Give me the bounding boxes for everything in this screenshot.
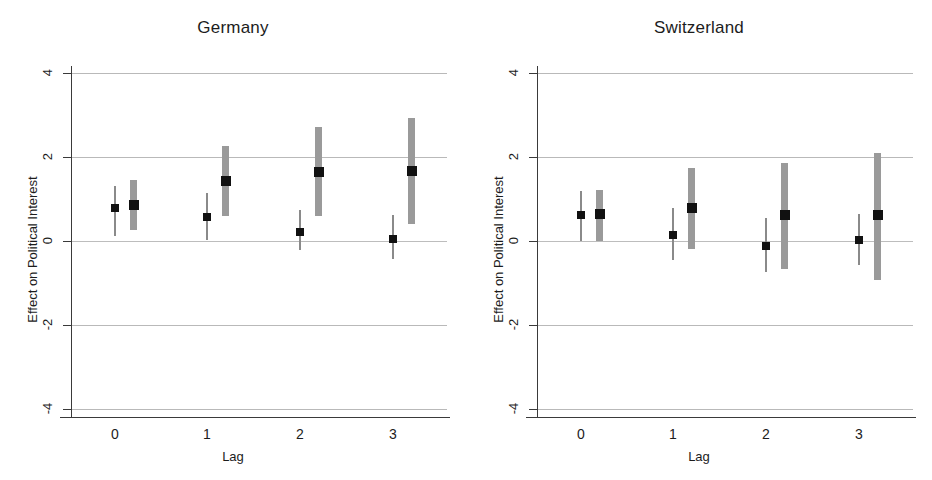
- panel-switzerland: Switzerland Effect on Political Interest…: [466, 0, 932, 480]
- gridline--2: [72, 325, 447, 326]
- point-estimate-marker: [203, 213, 211, 221]
- y-tick-mark: [529, 325, 538, 326]
- point-estimate-marker: [595, 209, 605, 219]
- x-tick-label-2: 2: [751, 426, 781, 442]
- y-tick-label: -4: [40, 398, 55, 420]
- point-estimate-marker: [221, 176, 231, 186]
- y-tick-label: 4: [506, 62, 521, 84]
- y-tick-mark: [529, 241, 538, 242]
- y-axis-title: Effect on Political Interest: [25, 125, 40, 375]
- gridline-2: [538, 157, 913, 158]
- y-tick-mark: [529, 409, 538, 410]
- gridline-2: [72, 157, 447, 158]
- x-tick-label-1: 1: [658, 426, 688, 442]
- point-estimate-marker: [762, 242, 770, 250]
- x-tick-label-2: 2: [285, 426, 315, 442]
- point-estimate-marker: [855, 236, 863, 244]
- y-tick-mark: [529, 157, 538, 158]
- x-axis-title: Lag: [466, 449, 932, 464]
- gridline--4: [538, 409, 913, 410]
- y-tick-label: 0: [506, 230, 521, 252]
- point-estimate-marker: [389, 235, 397, 243]
- y-tick-label: 4: [40, 62, 55, 84]
- y-tick-label: -2: [40, 314, 55, 336]
- point-estimate-marker: [111, 204, 119, 212]
- x-axis-title: Lag: [0, 449, 466, 464]
- point-estimate-marker: [687, 203, 697, 213]
- y-tick-mark: [63, 73, 72, 74]
- y-tick-mark: [63, 409, 72, 410]
- point-estimate-marker: [129, 200, 139, 210]
- gridline--2: [538, 325, 913, 326]
- x-axis-line: [60, 417, 450, 418]
- gridline-4: [538, 73, 913, 74]
- gridline-4: [72, 73, 447, 74]
- y-tick-label: -4: [506, 398, 521, 420]
- gridline--4: [72, 409, 447, 410]
- panel-title: Germany: [0, 18, 466, 38]
- x-axis-line: [526, 417, 916, 418]
- y-tick-mark: [63, 325, 72, 326]
- y-tick-label: 0: [40, 230, 55, 252]
- point-estimate-marker: [577, 211, 585, 219]
- x-tick-label-0: 0: [566, 426, 596, 442]
- y-tick-label: 2: [506, 146, 521, 168]
- point-estimate-marker: [407, 166, 417, 176]
- point-estimate-marker: [780, 210, 790, 220]
- point-estimate-marker: [873, 210, 883, 220]
- point-estimate-marker: [314, 167, 324, 177]
- y-tick-mark: [63, 157, 72, 158]
- x-tick-label-0: 0: [100, 426, 130, 442]
- x-tick-label-3: 3: [378, 426, 408, 442]
- y-tick-mark: [63, 241, 72, 242]
- x-tick-label-1: 1: [192, 426, 222, 442]
- y-axis-title: Effect on Political Interest: [491, 125, 506, 375]
- panel-germany: Germany Effect on Political Interest Lag…: [0, 0, 466, 480]
- y-tick-label: -2: [506, 314, 521, 336]
- y-tick-label: 2: [40, 146, 55, 168]
- point-estimate-marker: [296, 228, 304, 236]
- x-tick-label-3: 3: [844, 426, 874, 442]
- y-tick-mark: [529, 73, 538, 74]
- point-estimate-marker: [669, 231, 677, 239]
- panel-title: Switzerland: [466, 18, 932, 38]
- figure-canvas: Germany Effect on Political Interest Lag…: [0, 0, 932, 480]
